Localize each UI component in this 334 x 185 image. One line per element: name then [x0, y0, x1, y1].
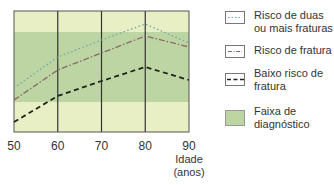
legend-label: Risco de duasou mais fraturas [254, 9, 334, 35]
x-axis-label-line2: (anos) [173, 166, 204, 179]
dash-dot-line-swatch-icon [225, 45, 245, 58]
legend-label: Baixo risco defratura [254, 67, 334, 93]
chart-plot [0, 0, 200, 140]
dashed-line-swatch-icon [225, 73, 245, 86]
band-swatch-icon [225, 110, 245, 126]
x-axis-label: Idade (anos) [173, 153, 204, 179]
legend-label: Faixa dediagnóstico [254, 105, 334, 131]
dotted-line-swatch-icon [225, 11, 245, 24]
x-tick-90: 90 [182, 139, 195, 153]
legend-label: Risco de fratura [254, 44, 334, 57]
x-tick-50: 50 [7, 139, 20, 153]
x-tick-60: 60 [51, 139, 64, 153]
x-axis-label-line1: Idade [173, 153, 204, 166]
x-tick-70: 70 [95, 139, 108, 153]
x-tick-80: 80 [139, 139, 152, 153]
